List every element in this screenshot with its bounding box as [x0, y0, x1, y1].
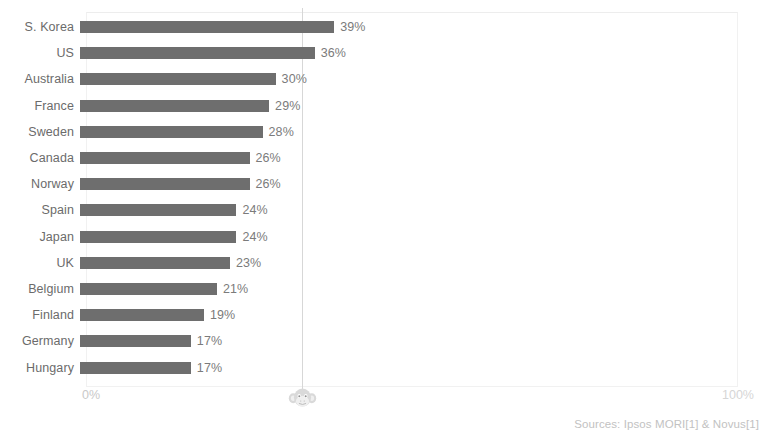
bar-row: Hungary17% [0, 354, 771, 380]
bar-value-label: 21% [223, 282, 248, 296]
category-label: Hungary [0, 361, 80, 375]
bar-value-label: 24% [242, 230, 267, 244]
category-label: Australia [0, 72, 80, 86]
category-label: Spain [0, 203, 80, 217]
bar-row: Belgium21% [0, 276, 771, 302]
bar-row: France29% [0, 93, 771, 119]
category-label: Japan [0, 230, 80, 244]
bar [80, 362, 191, 374]
category-label: France [0, 99, 80, 113]
bar [80, 47, 315, 59]
bar-value-label: 17% [197, 334, 222, 348]
bar-track: 21% [80, 276, 771, 302]
bar-value-label: 24% [242, 203, 267, 217]
bar-value-label: 19% [210, 308, 235, 322]
bar-row: Norway26% [0, 171, 771, 197]
axis-tick-min: 0% [82, 388, 100, 402]
bar-track: 39% [80, 14, 771, 40]
bar-track: 30% [80, 66, 771, 92]
category-label: Canada [0, 151, 80, 165]
bar [80, 73, 276, 85]
category-label: US [0, 46, 80, 60]
bar-track: 17% [80, 328, 771, 354]
bar-track: 17% [80, 354, 771, 380]
bar [80, 283, 217, 295]
bar [80, 257, 230, 269]
bar-row: UK23% [0, 250, 771, 276]
bar [80, 152, 250, 164]
category-label: Germany [0, 334, 80, 348]
bar-value-label: 28% [269, 125, 294, 139]
bar-track: 36% [80, 40, 771, 66]
bar-value-label: 17% [197, 361, 222, 375]
category-label: Finland [0, 308, 80, 322]
bar-row: Spain24% [0, 197, 771, 223]
bar-row: Australia30% [0, 66, 771, 92]
monkey-face-icon [288, 385, 317, 411]
bar-track: 26% [80, 171, 771, 197]
bar-row: S. Korea39% [0, 14, 771, 40]
category-label: Sweden [0, 125, 80, 139]
category-label: Norway [0, 177, 80, 191]
bar-row: Finland19% [0, 302, 771, 328]
bar-row: Japan24% [0, 224, 771, 250]
category-label: Belgium [0, 282, 80, 296]
bar-track: 28% [80, 119, 771, 145]
bar [80, 126, 263, 138]
bar [80, 231, 236, 243]
bar-track: 23% [80, 250, 771, 276]
bar [80, 309, 204, 321]
category-label: S. Korea [0, 20, 80, 34]
bar [80, 335, 191, 347]
bar-row: Germany17% [0, 328, 771, 354]
bar-rows: S. Korea39%US36%Australia30%France29%Swe… [0, 14, 771, 381]
bar [80, 100, 269, 112]
bar-track: 24% [80, 197, 771, 223]
bar-value-label: 39% [340, 20, 365, 34]
bar-value-label: 29% [275, 99, 300, 113]
bar-track: 26% [80, 145, 771, 171]
bar-track: 29% [80, 93, 771, 119]
bar [80, 204, 236, 216]
category-label: UK [0, 256, 80, 270]
bar-value-label: 36% [321, 46, 346, 60]
source-note: Sources: Ipsos MORI[1] & Novus[1] [574, 418, 759, 430]
bar-track: 19% [80, 302, 771, 328]
bar-value-label: 26% [256, 177, 281, 191]
axis-tick-max: 100% [722, 388, 754, 402]
bar [80, 21, 334, 33]
bar-row: Sweden28% [0, 119, 771, 145]
bar-row: Canada26% [0, 145, 771, 171]
bar-row: US36% [0, 40, 771, 66]
bar-value-label: 23% [236, 256, 261, 270]
bar-value-label: 26% [256, 151, 281, 165]
bar [80, 178, 250, 190]
bar-track: 24% [80, 224, 771, 250]
bar-value-label: 30% [282, 72, 307, 86]
